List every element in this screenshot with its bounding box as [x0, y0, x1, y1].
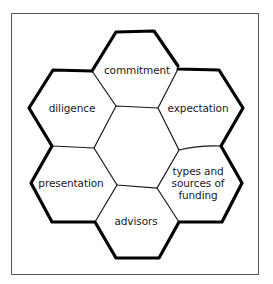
spoke-left — [52, 146, 94, 148]
spoke-right — [179, 146, 221, 150]
cell-label-presentation: presentation — [38, 177, 103, 189]
cell-label-expectation: expectation — [168, 102, 229, 114]
honeycomb-diagram — [0, 0, 273, 284]
spoke-top-left — [92, 71, 116, 106]
cell-label-commitment: commitment — [104, 64, 170, 76]
cell-label-diligence: diligence — [49, 102, 96, 114]
cell-label-types-and-sources-of-funding: types and sources of funding — [163, 165, 233, 201]
cell-label-advisors: advisors — [114, 215, 157, 227]
